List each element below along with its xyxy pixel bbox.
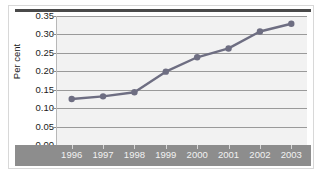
x-axis-tick-mark xyxy=(103,145,104,149)
x-axis-tick-mark xyxy=(260,145,261,149)
x-axis-tick-mark xyxy=(197,145,198,149)
series-data-layer xyxy=(56,16,307,145)
data-point-marker xyxy=(288,21,294,27)
y-axis-tick-label: 0.10 xyxy=(20,103,54,113)
x-axis-tick-mark xyxy=(72,145,73,149)
y-axis-tick-mark xyxy=(52,53,56,54)
y-axis-tick-label: 0.15 xyxy=(20,85,54,95)
y-axis-tick-mark xyxy=(52,108,56,109)
x-axis-tick-mark xyxy=(229,145,230,149)
data-point-marker xyxy=(163,68,169,74)
line-chart-figure: Per cent 0.350.300.250.200.150.100.050.0… xyxy=(0,0,323,175)
y-axis-tick-mark xyxy=(52,127,56,128)
x-axis-tick-label: 2003 xyxy=(271,150,311,160)
x-axis-band: 19961997199819992000200120022003 xyxy=(15,145,311,166)
x-axis-tick-mark xyxy=(134,145,135,149)
data-point-marker xyxy=(225,45,231,51)
data-point-marker xyxy=(257,28,263,34)
y-axis-tick-label: 0.35 xyxy=(20,11,54,21)
y-axis-tick-label: 0.20 xyxy=(20,66,54,76)
y-axis-tick-label: 0.05 xyxy=(20,122,54,132)
x-axis-tick-mark xyxy=(166,145,167,149)
y-axis-tick-mark xyxy=(52,90,56,91)
y-axis-tick-mark xyxy=(52,145,56,146)
data-point-marker xyxy=(194,54,200,60)
series-markers xyxy=(68,21,294,103)
y-axis-tick-mark xyxy=(52,71,56,72)
series-line-per-cent xyxy=(72,24,292,99)
y-axis-tick-label: 0.25 xyxy=(20,48,54,58)
x-axis-tick-mark xyxy=(291,145,292,149)
data-point-marker xyxy=(68,96,74,102)
top-rule-divider xyxy=(15,9,311,12)
data-point-marker xyxy=(131,89,137,95)
data-point-marker xyxy=(100,93,106,99)
y-axis-tick-mark xyxy=(52,34,56,35)
y-axis-tick-labels: 0.350.300.250.200.150.100.050.00 xyxy=(18,16,54,145)
y-axis-tick-label: 0.30 xyxy=(20,29,54,39)
y-axis-tick-mark xyxy=(52,16,56,17)
